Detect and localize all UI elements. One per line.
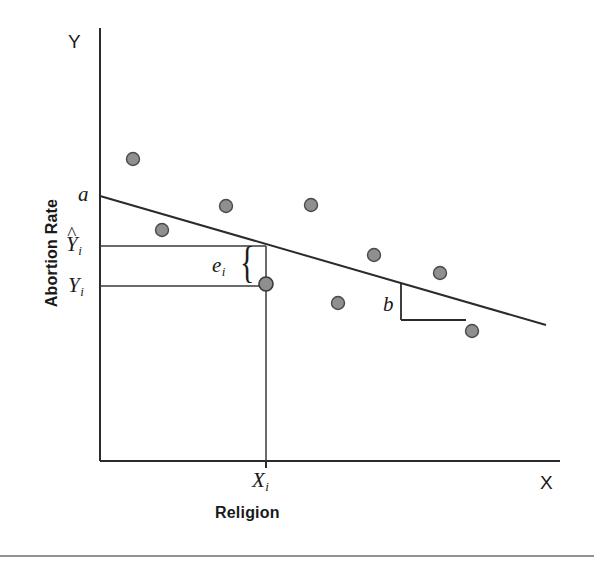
y-axis-caption: Abortion Rate [44,173,60,333]
residual-letter: e [212,253,221,277]
data-point [434,267,447,280]
highlighted-data-point [259,277,273,291]
data-point [466,325,479,338]
residual-brace-icon: { [240,237,254,286]
observed-value-letter: Y [68,273,80,297]
residual-subscript: i [222,264,226,279]
data-point [305,199,318,212]
predicted-value-label: ^Yi [66,234,82,257]
scatter-points [127,153,479,338]
y-axis-letter: Y [68,32,81,51]
observed-value-subscript: i [80,284,84,299]
data-point [127,153,140,166]
x-axis-letter: X [540,473,553,492]
x-value-letter: X [252,468,265,492]
predicted-value-subscript: i [78,243,82,258]
regression-figure: Y X Abortion Rate Religion a ^Yi Yi Xi e… [0,0,594,563]
data-point [368,249,381,262]
x-axis-caption: Religion [215,505,280,521]
data-point [156,224,169,237]
data-point [332,297,345,310]
regression-line [100,196,546,325]
observed-value-label: Yi [68,275,84,298]
intercept-label: a [78,184,89,205]
slope-label: b [383,294,394,315]
hat-accent-icon: ^ [67,224,76,243]
x-value-label: Xi [252,470,269,493]
data-point [220,200,233,213]
x-value-subscript: i [265,479,269,494]
plot-canvas [0,0,594,563]
residual-label: ei [212,255,225,278]
